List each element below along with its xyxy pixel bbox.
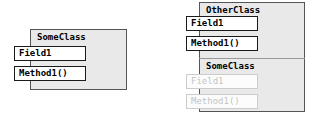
class-title-someclass: SomeClass — [37, 32, 86, 43]
inherited-section-divider — [199, 58, 305, 59]
inherited-member-field-someclass: Field1 — [186, 74, 258, 89]
member-field-otherclass[interactable]: Field1 — [186, 16, 258, 31]
member-method-otherclass[interactable]: Method1() — [186, 36, 258, 51]
class-title-otherclass: OtherClass — [206, 5, 260, 16]
diagram-canvas: SomeClass Field1 Method1() OtherClass Fi… — [0, 0, 321, 124]
member-method-someclass[interactable]: Method1() — [14, 66, 86, 81]
inherited-class-title-someclass: SomeClass — [206, 61, 255, 72]
inherited-member-method-someclass: Method1() — [186, 94, 258, 109]
member-field-someclass[interactable]: Field1 — [14, 46, 86, 61]
